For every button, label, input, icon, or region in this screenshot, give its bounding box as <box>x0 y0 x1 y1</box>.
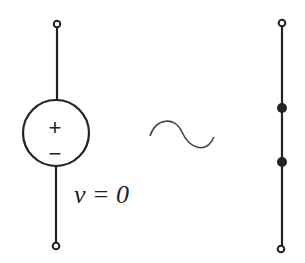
plus-sign: + <box>49 115 62 140</box>
voltage-source: + − <box>23 21 89 250</box>
top-terminal <box>279 20 286 27</box>
circuit-diagram: + − <box>0 0 305 263</box>
bottom-terminal <box>53 243 60 250</box>
node-dot <box>277 157 287 167</box>
voltage-label: v = 0 <box>74 180 129 210</box>
node-dot <box>277 103 287 113</box>
short-circuit <box>277 20 287 253</box>
bottom-terminal <box>278 246 285 253</box>
minus-sign: − <box>49 141 62 166</box>
top-terminal <box>54 21 61 28</box>
tilde-icon <box>150 121 214 147</box>
